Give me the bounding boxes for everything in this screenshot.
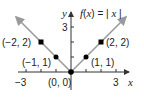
x-tick-3-label: 3 <box>113 77 119 88</box>
point-2-2 <box>99 40 104 45</box>
x-tick-neg3-label: −3 <box>15 77 27 88</box>
point-label-neg1-1: (−1, 1) <box>22 57 51 68</box>
point-label-2-2: (2, 2) <box>106 37 129 48</box>
point-neg1-1 <box>54 55 59 60</box>
point-1-1 <box>84 55 89 60</box>
point-label-neg2-2: (−2, 2) <box>2 37 31 48</box>
y-axis-label: y <box>61 7 67 19</box>
abs-value-graph: y 3 f(x) = | x | −3 3 x (−2, 2) (−1, 1) … <box>0 0 144 97</box>
point-origin <box>68 69 74 75</box>
function-label: f(x) = | x | <box>80 7 122 19</box>
x-axis-label: x <box>127 76 133 88</box>
y-tick-3-label: 3 <box>62 22 68 33</box>
point-label-1-1: (1, 1) <box>91 57 114 68</box>
point-neg2-2 <box>39 40 44 45</box>
point-label-origin: (0, 0) <box>48 77 71 88</box>
